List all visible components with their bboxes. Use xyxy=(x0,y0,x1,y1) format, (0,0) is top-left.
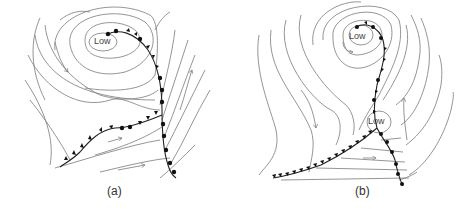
caption-a: (a) xyxy=(107,184,122,198)
panel-b-diagram xyxy=(231,0,462,215)
fronts-b xyxy=(272,21,404,186)
panel-a-diagram xyxy=(0,0,231,215)
low-label-a: Low xyxy=(94,36,111,46)
wind-arrows-b xyxy=(301,42,407,158)
panel-a: Low (a) xyxy=(0,0,231,215)
wind-arrows-a xyxy=(55,42,192,170)
low-label-b-primary: Low xyxy=(349,31,366,41)
caption-b: (b) xyxy=(355,184,370,198)
panel-b: Low Low (b) xyxy=(231,0,462,215)
low-label-b-secondary: Low xyxy=(368,116,385,126)
isobars-a xyxy=(25,7,210,178)
isobars-b xyxy=(258,2,454,180)
fronts-a xyxy=(60,28,176,178)
